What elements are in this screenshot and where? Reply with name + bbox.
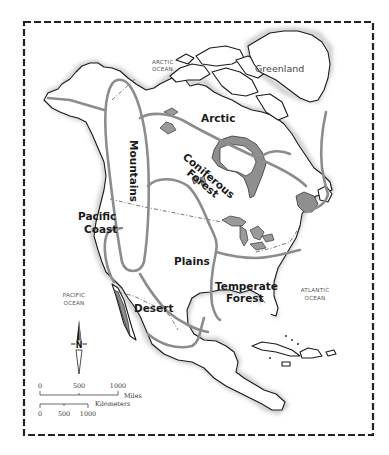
greenland-label: Greenland	[255, 63, 304, 74]
atlantic-ocean-label-2: OCEAN	[305, 295, 326, 301]
arctic-label: Arctic	[201, 112, 235, 124]
scale-miles-500: 500	[73, 382, 85, 390]
pacific-coast-label-1: Pacific	[78, 210, 116, 222]
plains-label: Plains	[174, 255, 210, 267]
caribbean-islands	[252, 335, 336, 366]
biome-map: ARCTIC OCEAN PACIFIC OCEAN ATLANTIC OCEA…	[0, 0, 389, 455]
atlantic-ocean-label-1: ATLANTIC	[301, 287, 330, 293]
north-arrow-icon: N	[71, 320, 87, 374]
temperate-label-1: Temperate	[215, 280, 278, 292]
pacific-coast-label-2: Coast	[84, 223, 117, 235]
scale-miles-unit: Miles	[124, 392, 142, 400]
compass-n-label: N	[76, 341, 83, 350]
mountains-label: Mountains	[128, 140, 140, 202]
scale-km-1000: 1000	[80, 410, 96, 418]
arctic-ocean-label-1: ARCTIC	[152, 59, 174, 65]
scale-km-0: 0	[38, 410, 42, 418]
scale-miles-0: 0	[38, 382, 42, 390]
scale-bar: 0 500 1000 Miles Kilometers 0 500 1000	[38, 382, 142, 418]
temperate-label-2: Forest	[226, 292, 264, 304]
pacific-ocean-label-2: OCEAN	[64, 300, 85, 306]
arctic-ocean-label-2: OCEAN	[152, 66, 173, 72]
desert-label: Desert	[134, 302, 173, 314]
north-america-landmass	[44, 63, 332, 410]
scale-km-unit: Kilometers	[95, 400, 130, 408]
scale-miles-1000: 1000	[110, 382, 126, 390]
pacific-ocean-label-1: PACIFIC	[63, 292, 85, 298]
scale-km-500: 500	[58, 410, 70, 418]
